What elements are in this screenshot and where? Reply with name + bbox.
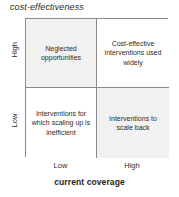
- quadrant-bottom-left: Interventions for which scaling up is in…: [26, 88, 97, 158]
- quadrant-top-right: Cost-effective interventions used widely: [97, 19, 169, 88]
- chart-title: cost-effectiveness: [10, 2, 84, 12]
- x-axis-tick-low: Low: [25, 161, 96, 170]
- quadrant-matrix: Neglected opportunities Cost-effective i…: [25, 18, 168, 157]
- x-axis-title: current coverage: [0, 177, 179, 187]
- y-axis-tick-high: High: [10, 44, 19, 58]
- quadrant-bottom-left-label: Interventions for which scaling up is in…: [30, 109, 92, 138]
- quadrant-top-right-label: Cost-effective interventions used widely: [101, 39, 165, 68]
- quadrant-top-left: Neglected opportunities: [26, 19, 97, 88]
- y-axis-tick-low: Low: [10, 114, 19, 128]
- cost-effectiveness-matrix-figure: cost-effectiveness Neglected opportuniti…: [0, 0, 179, 197]
- x-axis-tick-high: High: [96, 161, 168, 170]
- quadrant-bottom-right: Interventions to scale back: [97, 88, 169, 158]
- quadrant-bottom-right-label: Interventions to scale back: [101, 114, 165, 133]
- quadrant-top-left-label: Neglected opportunities: [30, 44, 92, 63]
